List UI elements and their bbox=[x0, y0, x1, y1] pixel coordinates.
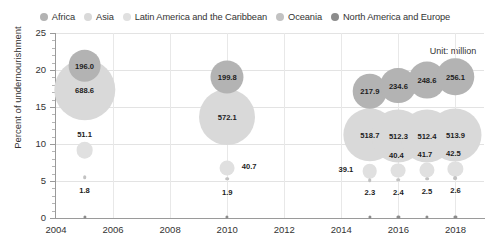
x-axis-line bbox=[56, 218, 485, 219]
bubble-point[interactable] bbox=[397, 178, 401, 182]
gridline-horizontal bbox=[56, 33, 484, 34]
gridline-horizontal bbox=[56, 181, 484, 182]
gridline-vertical bbox=[113, 33, 114, 218]
bubble-point[interactable] bbox=[391, 163, 406, 178]
legend-label: Oceania bbox=[288, 12, 322, 22]
bubble-point[interactable] bbox=[368, 178, 372, 182]
bubble-point[interactable] bbox=[76, 142, 93, 159]
legend-item-3[interactable]: Oceania bbox=[276, 12, 322, 22]
bubble-point[interactable] bbox=[454, 176, 458, 180]
bubble-chart: AfricaAsiaLatin America and the Caribbea… bbox=[0, 0, 490, 250]
legend-item-4[interactable]: North America and Europe bbox=[331, 12, 450, 22]
x-tick-label: 2018 bbox=[432, 224, 478, 235]
legend-item-2[interactable]: Latin America and the Caribbean bbox=[123, 12, 267, 22]
y-tick-label: 10 bbox=[6, 138, 46, 149]
x-tick-label: 2010 bbox=[204, 224, 250, 235]
y-tick-label: 5 bbox=[6, 175, 46, 186]
legend-dot-latin-america-icon bbox=[123, 13, 131, 21]
y-tick-label: 25 bbox=[6, 27, 46, 38]
legend-label: Latin America and the Caribbean bbox=[135, 12, 267, 22]
legend-label: North America and Europe bbox=[343, 12, 450, 22]
gridline-vertical bbox=[341, 33, 342, 218]
y-tick-label: 15 bbox=[6, 101, 46, 112]
x-tick-label: 2012 bbox=[261, 224, 307, 235]
y-tick-label: 20 bbox=[6, 64, 46, 75]
legend-dot-asia-icon bbox=[84, 13, 92, 21]
y-tick-label: 0 bbox=[6, 212, 46, 223]
gridline-vertical bbox=[284, 33, 285, 218]
x-tick-label: 2014 bbox=[318, 224, 364, 235]
bubble-point[interactable] bbox=[225, 177, 229, 181]
x-tick-label: 2008 bbox=[147, 224, 193, 235]
legend-item-1[interactable]: Asia bbox=[84, 12, 114, 22]
bubble-point[interactable] bbox=[363, 164, 378, 179]
unit-annotation: Unit: million bbox=[430, 46, 477, 56]
x-tick-label: 2006 bbox=[90, 224, 136, 235]
legend-dot-africa-icon bbox=[40, 13, 48, 21]
gridline-vertical bbox=[170, 33, 171, 218]
bubble-point[interactable] bbox=[429, 109, 482, 162]
bubble-point[interactable] bbox=[68, 49, 101, 82]
bubble-point[interactable] bbox=[199, 89, 255, 145]
legend-item-0[interactable]: Africa bbox=[40, 12, 75, 22]
legend-dot-oceania-icon bbox=[276, 13, 284, 21]
bubble-point[interactable] bbox=[425, 177, 429, 181]
gridline-horizontal bbox=[56, 107, 484, 108]
x-tick-label: 2004 bbox=[33, 224, 79, 235]
bubble-point[interactable] bbox=[211, 61, 244, 94]
legend-label: Asia bbox=[96, 12, 114, 22]
chart-legend: AfricaAsiaLatin America and the Caribbea… bbox=[0, 8, 490, 26]
legend-label: Africa bbox=[52, 12, 75, 22]
bubble-point[interactable] bbox=[220, 161, 235, 176]
bubble-point[interactable] bbox=[83, 176, 87, 180]
x-tick-label: 2016 bbox=[375, 224, 421, 235]
legend-dot-north-america-europe-icon bbox=[331, 13, 339, 21]
